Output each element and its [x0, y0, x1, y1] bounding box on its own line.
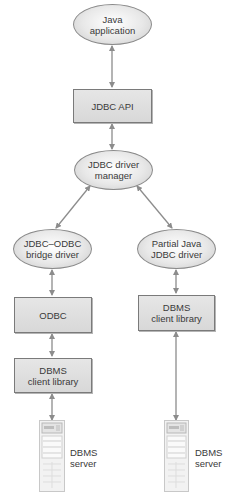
- dbms-client-library-left-node: DBMS client library: [14, 358, 92, 393]
- node-label-line1: DBMS: [39, 365, 66, 376]
- node-label: JDBC API: [91, 101, 133, 112]
- jdbc-driver-manager-node: JDBC driver manager: [74, 150, 153, 190]
- dbms-server-right-label: DBMS server: [195, 447, 222, 469]
- node-label-line1: JDBC–ODBC: [24, 238, 82, 249]
- node-label: ODBC: [39, 310, 66, 321]
- node-label-line2: client library: [28, 376, 79, 387]
- node-label-line1: Partial Java: [152, 238, 202, 249]
- edge-driver-manager-bridge: [56, 186, 90, 228]
- node-label-line1: JDBC driver: [88, 159, 139, 170]
- node-label-line2: JDBC driver: [151, 249, 202, 260]
- edge-driver-manager-partial: [137, 186, 172, 228]
- java-application-node: Java application: [73, 4, 152, 45]
- node-label-line2: client library: [151, 313, 202, 324]
- dbms-client-library-right-node: DBMS client library: [138, 295, 215, 331]
- server-icon: [39, 420, 65, 492]
- node-label-line2: manager: [95, 170, 133, 181]
- odbc-node: ODBC: [14, 297, 92, 333]
- server-icon: [164, 420, 189, 492]
- jdbc-odbc-bridge-driver-node: JDBC–ODBC bridge driver: [13, 229, 92, 269]
- node-label-line2: bridge driver: [26, 249, 79, 260]
- dbms-server-left-label: DBMS server: [70, 447, 97, 469]
- partial-java-jdbc-driver-node: Partial Java JDBC driver: [137, 229, 216, 269]
- jdbc-api-node: JDBC API: [73, 89, 152, 123]
- node-label-line1: Java: [102, 14, 122, 25]
- node-label-line1: DBMS: [163, 302, 190, 313]
- node-label-line2: application: [90, 25, 135, 36]
